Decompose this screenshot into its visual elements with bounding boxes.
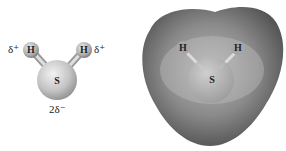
partial-charge-h-left: δ⁺ [8, 44, 19, 55]
h2s-figure: H H S δ⁺ δ⁺ 2δ⁻ H H S [0, 0, 286, 151]
partial-charge-s: 2δ⁻ [49, 104, 66, 115]
partial-charge-h-right: δ⁺ [94, 44, 105, 55]
map-atom-label-h-left: H [179, 43, 187, 53]
molecule-drawings [0, 0, 286, 151]
map-atom-label-h-right: H [234, 43, 242, 53]
atom-label-s: S [54, 76, 60, 86]
atom-label-h-left: H [27, 45, 35, 55]
atom-label-h-right: H [80, 45, 88, 55]
map-atom-label-s: S [209, 75, 215, 85]
